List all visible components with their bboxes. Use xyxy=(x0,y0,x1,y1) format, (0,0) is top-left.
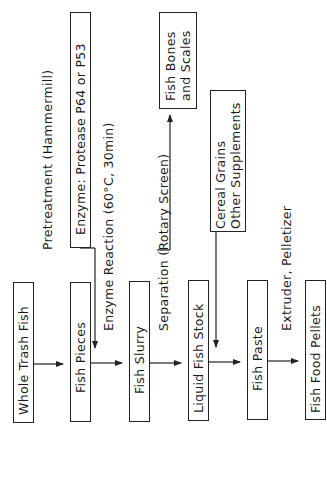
node-label: Fish Paste xyxy=(250,326,265,391)
node-fish-food-pellets: Fish Food Pellets xyxy=(305,280,326,420)
node-label: Enzyme: Protease P64 or P53 xyxy=(73,43,88,235)
node-label-line2: and Scales xyxy=(178,30,193,101)
node-fish-pieces: Fish Pieces xyxy=(70,282,91,422)
node-fish-paste: Fish Paste xyxy=(247,280,268,420)
node-fish-slurry: Fish Slurry xyxy=(129,281,150,422)
node-label: Fish Food Pellets xyxy=(308,305,323,413)
node-label: Fish Pieces xyxy=(73,322,88,393)
step-extruder: Extruder, Pelletizer xyxy=(279,206,294,331)
node-label: Whole Trash Fish xyxy=(16,306,31,415)
step-pretreatment: Pretreatment (Hammermill) xyxy=(40,70,55,250)
node-cereal-input: Cereal Grains Other Supplements xyxy=(210,90,246,232)
node-fish-bones-output: Fish Bones and Scales xyxy=(159,12,197,109)
node-liquid-fish-stock: Liquid Fish Stock xyxy=(188,280,209,421)
node-label: Fish Slurry xyxy=(132,326,147,394)
node-enzyme-input: Enzyme: Protease P64 or P53 xyxy=(70,12,91,248)
step-separation: Separation (Rotary Screen) xyxy=(156,154,171,331)
node-label-line1: Cereal Grains xyxy=(213,141,228,229)
node-whole-trash-fish: Whole Trash Fish xyxy=(13,282,34,423)
step-enzyme-reaction: Enzyme Reaction (60°C, 30min) xyxy=(101,122,116,331)
node-label: Liquid Fish Stock xyxy=(191,303,206,413)
node-label-line1: Fish Bones xyxy=(163,31,178,101)
node-label-line2: Other Supplements xyxy=(228,102,243,229)
